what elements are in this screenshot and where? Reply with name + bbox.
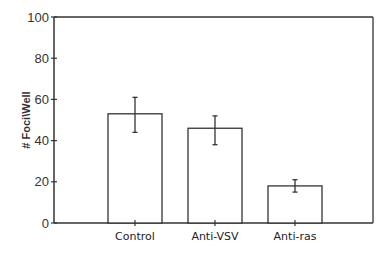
bar-chart: 020406080100 ControlAnti-VSVAnti-ras # F… bbox=[0, 0, 384, 253]
y-tick-label: 100 bbox=[27, 10, 49, 25]
y-tick-label: 0 bbox=[42, 216, 49, 231]
y-tick-label: 80 bbox=[35, 51, 49, 66]
bars bbox=[108, 97, 322, 223]
y-tick-label: 60 bbox=[35, 92, 49, 107]
bar-anti-vsv bbox=[188, 116, 242, 223]
y-axis-label: # Foci\Well bbox=[20, 91, 32, 148]
x-tick-label: Anti-ras bbox=[274, 230, 317, 243]
y-tick-label: 40 bbox=[35, 133, 49, 148]
x-tick-label: Control bbox=[115, 230, 155, 243]
bar-anti-ras bbox=[268, 180, 322, 223]
bar-control bbox=[108, 97, 162, 223]
y-tick-label: 20 bbox=[35, 174, 49, 189]
x-tick-label: Anti-VSV bbox=[191, 230, 239, 243]
